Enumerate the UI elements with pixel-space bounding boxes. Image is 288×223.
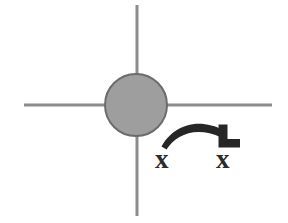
diagram-canvas: x x — [0, 0, 288, 223]
diagram-svg — [0, 0, 288, 223]
target-position-marker: x — [216, 146, 230, 173]
center-node-disc — [105, 74, 167, 136]
source-position-marker: x — [155, 146, 169, 173]
